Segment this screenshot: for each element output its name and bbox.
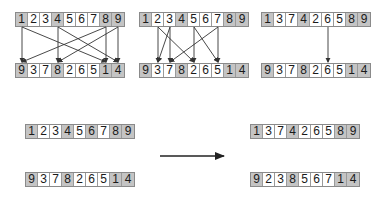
mapping-arrow (158, 27, 194, 62)
connector-layer (0, 0, 386, 200)
crossover-links (22, 27, 328, 62)
mapping-arrow (194, 27, 218, 62)
